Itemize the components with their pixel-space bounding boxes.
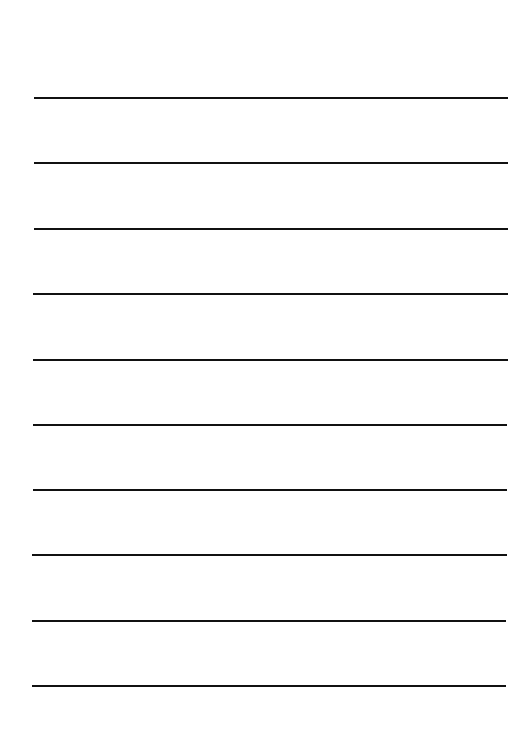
ruled-line (33, 293, 508, 295)
ruled-line (33, 424, 507, 426)
ruled-line (34, 228, 508, 230)
ruled-line (32, 554, 507, 556)
ruled-line (33, 359, 508, 361)
ruled-line (33, 489, 507, 491)
ruled-line (34, 97, 508, 99)
ruled-line (32, 685, 506, 687)
ruled-line (32, 620, 506, 622)
ruled-line (34, 162, 508, 164)
